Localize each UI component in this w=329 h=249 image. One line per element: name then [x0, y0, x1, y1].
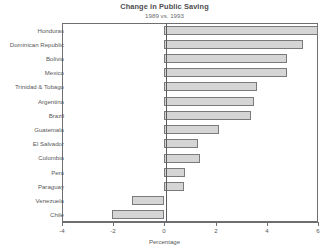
x-axis-tick	[164, 222, 165, 226]
y-axis-tick-label: Trinidad & Tobago	[0, 83, 64, 90]
bar	[164, 26, 318, 35]
bar	[164, 97, 254, 106]
y-axis-tick-label: Paraguay	[0, 183, 64, 190]
x-axis-tick	[267, 222, 268, 226]
x-axis-title: Percentage	[0, 238, 329, 245]
zero-reference-line	[166, 23, 167, 222]
x-axis-line	[62, 222, 319, 223]
x-axis-tick-label: 6	[306, 227, 329, 234]
bar	[112, 210, 164, 219]
bar	[132, 196, 164, 205]
x-axis-tick	[318, 222, 319, 226]
y-axis-tick-label: Colombia	[0, 154, 64, 161]
x-axis-tick	[113, 222, 114, 226]
y-axis-tick-label: Venezuela	[0, 197, 64, 204]
y-axis-tick-label: Guatemala	[0, 126, 64, 133]
y-axis-tick-label: Mexico	[0, 69, 64, 76]
x-axis-tick	[62, 222, 63, 226]
y-axis-tick-label: Chile	[0, 211, 64, 218]
y-axis-tick-label: Peru	[0, 169, 64, 176]
x-axis-tick	[216, 222, 217, 226]
bar	[164, 182, 183, 191]
y-axis-tick-label: Honduras	[0, 27, 64, 34]
bar	[164, 68, 287, 77]
y-axis-tick-label: Dominican Republic	[0, 41, 64, 48]
x-axis-tick-label: 2	[204, 227, 228, 234]
bar	[164, 40, 302, 49]
y-axis-tick-label: Brazil	[0, 112, 64, 119]
x-axis-tick-label: -4	[50, 227, 74, 234]
bar	[164, 139, 197, 148]
bar	[164, 82, 256, 91]
bar	[164, 54, 287, 63]
x-axis-tick-label: 0	[152, 227, 176, 234]
chart-figure: Change in Public Saving 1989 vs. 1993 Ho…	[0, 0, 329, 249]
bar	[164, 125, 219, 134]
y-axis-tick-label: Bolivia	[0, 55, 64, 62]
bar-series: HondurasDominican RepublicBoliviaMexicoT…	[0, 0, 329, 249]
x-axis-tick-label: -2	[101, 227, 125, 234]
y-axis-tick-label: El Salvador	[0, 140, 64, 147]
x-axis-tick-label: 4	[255, 227, 279, 234]
bar	[164, 168, 184, 177]
bar	[164, 111, 251, 120]
y-axis-tick-label: Argentina	[0, 98, 64, 105]
bar	[164, 154, 200, 163]
